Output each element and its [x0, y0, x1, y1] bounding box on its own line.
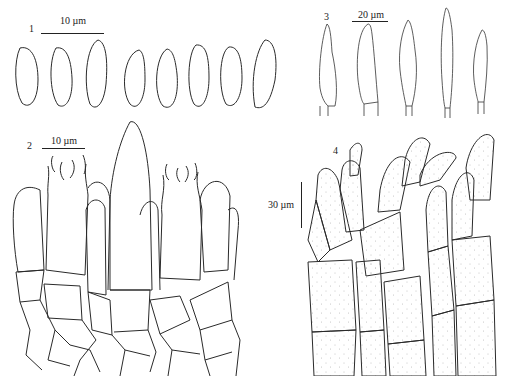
spores [16, 40, 276, 108]
line-drawing [0, 0, 514, 376]
pileipellis [308, 135, 496, 376]
hymenium [13, 122, 240, 376]
cystidia [319, 8, 487, 118]
figure-plate: 1 10 µm 2 10 µm 3 20 µm 4 30 µm [0, 0, 514, 376]
